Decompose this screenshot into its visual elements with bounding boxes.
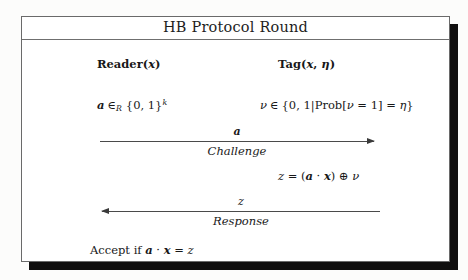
response-symbol-label: z xyxy=(102,195,380,208)
reader-expr-set: {0, 1} xyxy=(126,98,163,112)
response-arrowhead-left-icon xyxy=(101,208,109,214)
figure-title: HB Protocol Round xyxy=(22,19,449,35)
tag-expr-prob-value: 1 xyxy=(371,98,378,112)
tag-close-paren: ) xyxy=(330,57,335,71)
response-message-arrow: z Response xyxy=(102,211,380,212)
tag-response-computation: z = (a · x) ⊕ ν xyxy=(278,169,359,183)
challenge-symbol-label: a xyxy=(100,125,374,138)
tag-compute-equals: = xyxy=(284,169,301,183)
accept-vector-a: a xyxy=(145,243,152,257)
challenge-caption: Challenge xyxy=(100,144,374,158)
accept-rhs-z: z xyxy=(187,243,193,257)
tag-compute-dot-operator: · xyxy=(313,169,324,183)
tag-compute-vector-x: x xyxy=(324,169,331,183)
protocol-figure-frame: HB Protocol Round Reader(x) Tag(x, η) a∈… xyxy=(21,16,450,262)
reader-name: Reader xyxy=(97,57,143,71)
response-caption: Response xyxy=(102,214,380,228)
tag-party-label: Tag(x, η) xyxy=(278,57,335,71)
reader-close-paren: ) xyxy=(155,57,160,71)
tag-expr-membership-symbol: ∈ xyxy=(270,98,279,112)
tag-expr-prob-equals: = xyxy=(354,98,371,112)
response-arrow-line xyxy=(102,211,380,212)
reader-expr-exponent-k: k xyxy=(162,98,167,107)
challenge-arrow-line xyxy=(100,141,374,142)
accept-dot-operator: · xyxy=(153,243,164,257)
tag-compute-nu: ν xyxy=(352,169,359,183)
tag-arg-eta: η xyxy=(321,57,329,71)
challenge-symbol-a: a xyxy=(233,125,240,138)
tag-expr-equals: = xyxy=(382,98,399,112)
tag-expr-set-open: { xyxy=(282,98,289,112)
title-divider-rule xyxy=(22,39,449,40)
reader-expr-vector-a: a xyxy=(97,98,104,112)
accept-prefix-text: Accept if xyxy=(90,243,145,257)
tag-expr-nu: ν xyxy=(260,98,267,112)
reader-expr-subscript-r: R xyxy=(116,104,122,113)
reader-party-label: Reader(x) xyxy=(97,57,161,71)
response-symbol-z: z xyxy=(238,195,244,208)
reader-random-vector-expression: a∈R{0, 1}k xyxy=(97,98,167,113)
tag-expr-prob-nu: ν xyxy=(347,98,354,112)
tag-name: Tag xyxy=(278,57,301,71)
accept-equals: = xyxy=(171,243,188,257)
tag-expr-prob-name: Prob xyxy=(315,98,343,112)
tag-compute-vector-a: a xyxy=(306,169,313,183)
tag-compute-xor-operator: ⊕ xyxy=(335,169,352,183)
accept-condition: Accept if a · x = z xyxy=(90,243,194,257)
challenge-message-arrow: a Challenge xyxy=(100,141,374,142)
accept-vector-x: x xyxy=(164,243,171,257)
challenge-arrowhead-right-icon xyxy=(367,138,375,144)
tag-expr-set-close: } xyxy=(406,98,413,112)
tag-noise-distribution-expression: ν∈{0, 1|Prob[ν = 1] = η} xyxy=(260,98,414,112)
tag-expr-set-values: 0, 1 xyxy=(289,98,311,112)
reader-expr-membership-symbol: ∈ xyxy=(107,98,116,112)
